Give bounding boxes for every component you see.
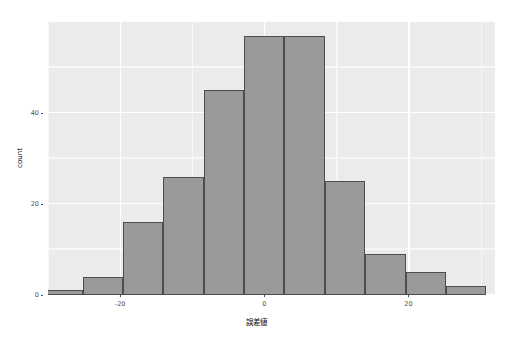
x-axis-tick-mark: [120, 295, 121, 297]
y-axis-tick-label: 0: [35, 291, 39, 299]
x-axis-tick-mark: [264, 295, 265, 297]
y-axis-tick-label: 40: [31, 109, 39, 117]
histogram-bar: [48, 290, 83, 295]
histogram-bar: [244, 36, 284, 295]
bars-layer: [48, 22, 495, 295]
x-axis-title: 誤差値: [0, 316, 513, 327]
histogram-bar: [325, 181, 365, 295]
histogram-bar: [83, 277, 123, 295]
y-axis-tick-mark: [41, 204, 43, 205]
histogram-bar: [446, 286, 486, 295]
histogram-bar: [406, 272, 446, 295]
y-axis-tick-mark: [41, 113, 43, 114]
plot-panel: [48, 22, 495, 295]
x-axis-tick-label: 0: [262, 300, 266, 308]
histogram-bar: [365, 254, 405, 295]
y-axis-tick-label: 20: [31, 200, 39, 208]
x-axis-tick-label: 20: [404, 300, 412, 308]
x-axis-tick-mark: [408, 295, 409, 297]
y-axis-tick-mark: [41, 295, 43, 296]
histogram-bar: [123, 222, 163, 295]
histogram-bar: [163, 177, 203, 295]
x-axis-tick-label: -20: [115, 300, 126, 308]
histogram-bar: [204, 90, 244, 295]
histogram-chart: 02040 -20020 誤差値 count: [0, 0, 513, 347]
histogram-bar: [284, 36, 324, 295]
y-axis-title: count: [16, 148, 24, 168]
